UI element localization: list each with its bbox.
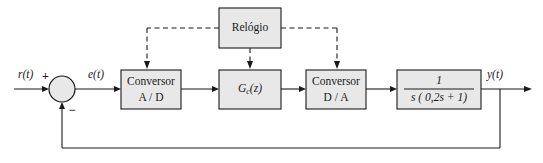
arrowhead-controller-input (212, 86, 219, 92)
controller-argument-z: (z) (250, 82, 262, 94)
block-plant-numerator: 1 (397, 75, 481, 87)
arrowhead-clock-adc (144, 61, 150, 69)
arrowhead-feedback-into-sum (59, 102, 65, 109)
summing-junction (49, 76, 75, 102)
arrowhead-dac-input (299, 86, 306, 92)
arrowhead-output (524, 86, 532, 92)
arrowhead-clock-dac (334, 61, 340, 69)
block-controller-label: Gc(z) (219, 83, 281, 96)
label-input-signal: r(t) (18, 69, 33, 81)
label-output-signal: y(t) (487, 69, 503, 81)
block-adc-label-line2: A / D (121, 92, 181, 104)
arrowhead-sum-input (42, 86, 49, 92)
arrowhead-plant-input (390, 86, 397, 92)
arrowhead-adc-input (114, 86, 121, 92)
block-clock-label: Relógio (219, 22, 281, 34)
block-dac-label-line1: Conversor (306, 76, 366, 88)
sum-plus-sign: + (42, 70, 49, 82)
arrowhead-clock-controller (247, 61, 253, 69)
label-error-signal: e(t) (88, 69, 104, 81)
block-diagram: r(t) + − e(t) Relógio Conversor A / D Gc… (0, 0, 543, 163)
block-adc-label-line1: Conversor (121, 76, 181, 88)
sum-minus-sign: − (69, 104, 76, 116)
block-plant-denominator: s ( 0,2s + 1) (397, 92, 481, 104)
block-dac-label-line2: D / A (306, 92, 366, 104)
